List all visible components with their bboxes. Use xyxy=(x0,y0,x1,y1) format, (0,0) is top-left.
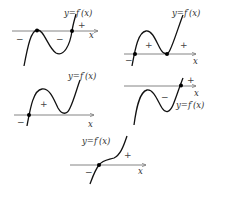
x-axis-label: x xyxy=(89,30,94,40)
critical-point xyxy=(165,52,169,56)
x-axis-label: x xyxy=(194,88,199,98)
x-axis-label: x xyxy=(88,119,93,129)
sign-label: + xyxy=(145,40,153,50)
sign-label: + xyxy=(180,40,188,50)
graph-1: y=f′(x) x − − + xyxy=(12,8,98,66)
sign-label: + xyxy=(78,20,86,30)
critical-point xyxy=(179,84,183,88)
graph-5: y=f′(x) x − + xyxy=(70,136,146,184)
sign-label: − xyxy=(85,167,93,177)
graph-3: y=f′(x) x − + xyxy=(14,71,96,129)
sign-label: − xyxy=(161,92,169,102)
derivative-curve xyxy=(132,15,183,66)
sign-label: + xyxy=(187,75,195,85)
derivative-curve xyxy=(24,14,76,66)
curve-label: y=f′(x) xyxy=(67,71,96,81)
curve-label: y=f′(x) xyxy=(171,8,200,18)
sign-label: + xyxy=(124,150,132,160)
derivative-curve xyxy=(27,80,80,126)
derivative-sign-figure: y=f′(x) x − − + y=f′(x) x − + + y=f′(x) … xyxy=(0,0,228,198)
sign-label: − xyxy=(17,117,25,127)
graph-2: y=f′(x) x − + + xyxy=(124,8,200,66)
x-axis-label: x xyxy=(193,56,198,66)
curve-label: y=f′(x) xyxy=(63,8,92,18)
sign-label: − xyxy=(56,34,64,44)
critical-point xyxy=(27,113,31,117)
curve-label: y=f′(x) xyxy=(81,136,110,146)
sign-label: − xyxy=(16,34,24,44)
x-axis-label: x xyxy=(138,166,143,176)
graph-4: y=f′(x) x − + xyxy=(124,75,204,125)
critical-point xyxy=(35,29,39,33)
sign-label: + xyxy=(40,99,48,109)
sign-label: − xyxy=(125,55,133,65)
critical-point xyxy=(70,29,74,33)
curve-label: y=f′(x) xyxy=(175,100,204,110)
critical-point xyxy=(133,52,137,56)
critical-point xyxy=(97,163,101,167)
